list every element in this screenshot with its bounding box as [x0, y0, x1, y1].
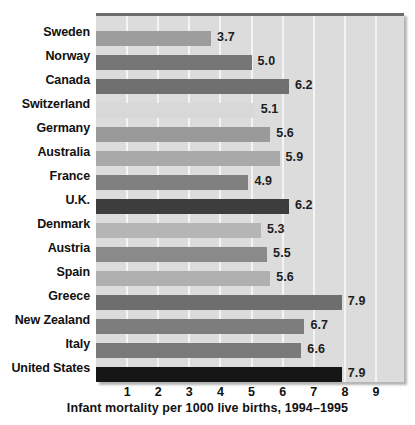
x-tick-label: 7 — [310, 385, 317, 399]
bar-row: 6.6 — [96, 339, 404, 363]
x-tick-label: 9 — [373, 385, 380, 399]
category-label: Austria — [0, 236, 90, 260]
bar — [96, 79, 289, 94]
x-axis-caption: Infant mortality per 1000 live births, 1… — [0, 401, 415, 415]
x-axis-ticks: 123456789 — [96, 385, 404, 401]
bar-value-label: 4.9 — [254, 174, 272, 188]
bar — [96, 343, 301, 358]
bar-row: 5.5 — [96, 243, 404, 267]
category-label: Switzerland — [0, 92, 90, 116]
bar-value-label: 6.7 — [310, 318, 328, 332]
bar-row: 5.3 — [96, 219, 404, 243]
bar — [96, 295, 342, 310]
bar-row: 7.9 — [96, 291, 404, 315]
bar-row: 6.7 — [96, 315, 404, 339]
category-label: Norway — [0, 44, 90, 68]
bar-row: 3.7 — [96, 27, 404, 51]
category-label: France — [0, 164, 90, 188]
x-tick-label: 8 — [341, 385, 348, 399]
category-label: Canada — [0, 68, 90, 92]
bar-row: 5.6 — [96, 123, 404, 147]
category-label: Australia — [0, 140, 90, 164]
bar-value-label: 5.5 — [273, 246, 291, 260]
infant-mortality-bar-chart: SwedenNorwayCanadaSwitzerlandGermanyAust… — [0, 0, 415, 425]
category-label: Sweden — [0, 20, 90, 44]
plot-area: 3.75.06.25.15.65.94.96.25.35.55.67.96.76… — [96, 13, 404, 382]
bar-row: 6.2 — [96, 75, 404, 99]
bar-value-label: 7.9 — [348, 366, 366, 380]
bar-value-label: 5.6 — [276, 126, 294, 140]
x-tick-label: 4 — [217, 385, 224, 399]
x-tick-label: 5 — [248, 385, 255, 399]
category-axis-labels: SwedenNorwayCanadaSwitzerlandGermanyAust… — [0, 13, 90, 382]
category-label: New Zealand — [0, 308, 90, 332]
bar-value-label: 7.9 — [348, 294, 366, 308]
bar-value-label: 6.2 — [295, 198, 313, 212]
category-label: U.K. — [0, 188, 90, 212]
bar — [96, 247, 267, 262]
category-label: Germany — [0, 116, 90, 140]
bar-rows: 3.75.06.25.15.65.94.96.25.35.55.67.96.76… — [96, 16, 404, 382]
x-tick-label: 3 — [186, 385, 193, 399]
bar — [96, 151, 280, 166]
bar-row: 7.9 — [96, 363, 404, 387]
category-label: Spain — [0, 260, 90, 284]
bar-value-label: 6.2 — [295, 78, 313, 92]
category-label: Denmark — [0, 212, 90, 236]
bar-value-label: 3.7 — [217, 30, 235, 44]
bar-value-label: 5.3 — [267, 222, 285, 236]
category-label: Greece — [0, 284, 90, 308]
bar-value-label: 5.9 — [286, 150, 304, 164]
bar — [96, 271, 270, 286]
category-label: United States — [0, 356, 90, 380]
bar-row: 5.6 — [96, 267, 404, 291]
bar-row: 4.9 — [96, 171, 404, 195]
bar — [96, 175, 248, 190]
bar-value-label: 5.0 — [258, 54, 276, 68]
category-label: Italy — [0, 332, 90, 356]
bar-row: 5.1 — [96, 99, 404, 123]
bar — [96, 31, 211, 46]
bar — [96, 223, 261, 238]
x-tick-label: 1 — [124, 385, 131, 399]
bar-value-label: 6.6 — [307, 342, 325, 356]
x-tick-label: 2 — [155, 385, 162, 399]
bar — [96, 367, 342, 382]
bar — [96, 103, 255, 118]
bar-row: 5.0 — [96, 51, 404, 75]
bar — [96, 127, 270, 142]
bar-row: 6.2 — [96, 195, 404, 219]
bar — [96, 319, 304, 334]
bar-value-label: 5.1 — [261, 102, 279, 116]
bar — [96, 199, 289, 214]
bar-row: 5.9 — [96, 147, 404, 171]
bar-value-label: 5.6 — [276, 270, 294, 284]
bar — [96, 55, 252, 70]
x-tick-label: 6 — [279, 385, 286, 399]
